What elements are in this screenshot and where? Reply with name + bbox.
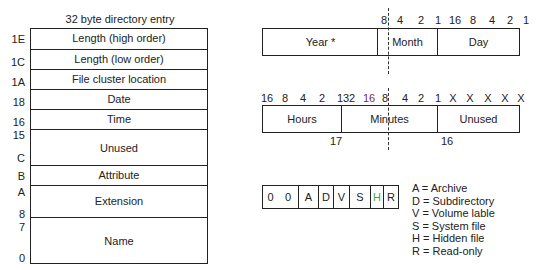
time-bit-8: 8: [278, 92, 292, 104]
row-extension: Extension: [31, 185, 207, 217]
offset-15: 15: [5, 129, 25, 141]
offset-16: 16: [5, 116, 25, 128]
row-length-low: Length (low order): [31, 49, 207, 69]
date-bit-1: 1: [431, 14, 445, 26]
time-hours: Hours: [263, 106, 341, 132]
row-time: Time: [31, 109, 207, 129]
byte-boundary-line-time: [388, 88, 389, 150]
offset-a: A: [5, 186, 25, 198]
offset-1a: 1A: [5, 76, 25, 88]
time-bit-2: 2: [315, 92, 329, 104]
time-unused: Unused: [437, 106, 519, 132]
directory-entry-table: Length (high order) Length (low order) F…: [30, 28, 208, 264]
date-field-box: Year * Month Day: [262, 28, 520, 56]
time-field-box: Hours Minutes Unused: [262, 105, 520, 133]
attr-bit-archive: A: [298, 186, 318, 208]
attr-bit-hidden: H: [370, 186, 383, 208]
offset-1c: 1C: [5, 56, 25, 68]
legend-readonly: R = Read-only: [412, 245, 495, 258]
time-bit-x3: X: [481, 92, 495, 104]
time-bit-2b: 2: [414, 92, 428, 104]
row-unused: Unused: [31, 129, 207, 165]
offset-18: 18: [5, 96, 25, 108]
byte-boundary-line-date: [388, 8, 389, 74]
time-bit-1b: 1: [431, 92, 445, 104]
offset-b: B: [5, 170, 25, 182]
row-attribute: Attribute: [31, 165, 207, 185]
time-bit-4b: 4: [398, 92, 412, 104]
date-bit-4b: 4: [485, 14, 499, 26]
time-bit-8b: 8: [378, 92, 392, 104]
row-name: Name: [31, 217, 207, 263]
date-bit-8b: 8: [466, 14, 480, 26]
offset-7: 7: [5, 221, 25, 233]
byte-label-16: 16: [441, 135, 453, 147]
attribute-legend: A = Archive D = Subdirectory V = Volume …: [412, 182, 495, 258]
offset-0: 0: [5, 252, 25, 264]
time-bit-32: 32: [341, 92, 357, 104]
offset-c: C: [5, 152, 25, 164]
attr-bit-system: S: [349, 186, 370, 208]
time-bit-x4: X: [498, 92, 512, 104]
legend-volume: V = Volume lable: [412, 207, 495, 220]
row-date: Date: [31, 89, 207, 109]
date-bit-16: 16: [447, 14, 463, 26]
date-bit-4: 4: [393, 14, 407, 26]
legend-archive: A = Archive: [412, 182, 495, 195]
time-bit-4: 4: [296, 92, 310, 104]
legend-subdirectory: D = Subdirectory: [412, 195, 495, 208]
time-bit-16: 16: [259, 92, 275, 104]
attr-bit-6: 0: [278, 186, 298, 208]
date-month: Month: [377, 29, 437, 55]
legend-system: S = System file: [412, 220, 495, 233]
date-bit-2b: 2: [503, 14, 517, 26]
directory-entry-title: 32 byte directory entry: [30, 13, 210, 25]
time-bit-x5: X: [514, 92, 528, 104]
time-bit-x2: X: [463, 92, 477, 104]
attr-bit-subdirectory: D: [318, 186, 333, 208]
attribute-byte-box: 0 0 A D V S H R: [262, 185, 399, 209]
date-bit-2: 2: [414, 14, 428, 26]
time-bit-16b: 16: [361, 92, 377, 104]
date-day: Day: [437, 29, 519, 55]
row-length-high: Length (high order): [31, 29, 207, 49]
offset-1e: 1E: [5, 33, 25, 45]
attr-bit-7: 0: [263, 186, 278, 208]
time-minutes: Minutes: [341, 106, 437, 132]
byte-label-17: 17: [330, 135, 342, 147]
attr-bit-volume: V: [333, 186, 349, 208]
legend-hidden: H = Hidden file: [412, 232, 495, 245]
row-file-cluster: File cluster location: [31, 69, 207, 89]
attr-bit-readonly: R: [383, 186, 398, 208]
date-bit-1b: 1: [519, 14, 533, 26]
time-bit-x1: X: [446, 92, 460, 104]
date-year: Year *: [263, 29, 378, 55]
offset-8: 8: [5, 208, 25, 220]
